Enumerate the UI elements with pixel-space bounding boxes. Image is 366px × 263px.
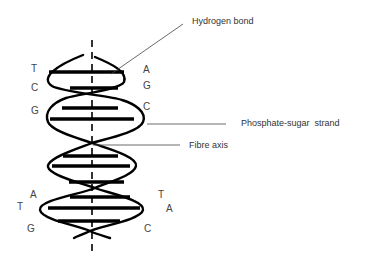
base-label-left: A xyxy=(30,190,37,200)
base-label-right: T xyxy=(158,190,164,200)
base-label-right: A xyxy=(143,65,150,75)
fibre-axis-label: Fibre axis xyxy=(189,141,228,150)
base-label-right: C xyxy=(144,224,151,234)
base-label-left: C xyxy=(31,83,38,93)
base-label-right: A xyxy=(166,204,173,214)
phosphate-sugar-strand-1 xyxy=(48,55,144,238)
hydrogen-bond-label: Hydrogen bond xyxy=(192,17,254,26)
phosphate-sugar-strand-2 xyxy=(40,57,136,238)
base-label-right: C xyxy=(143,102,150,112)
phosphate-sugar-strand-label: Phosphate-sugar strand xyxy=(241,119,340,128)
base-label-left: T xyxy=(31,64,37,74)
base-label-left: T xyxy=(17,202,23,212)
base-label-right: G xyxy=(143,81,151,91)
base-label-left: G xyxy=(31,106,39,116)
base-label-left: G xyxy=(27,224,35,234)
dna-helix-diagram xyxy=(0,0,366,263)
